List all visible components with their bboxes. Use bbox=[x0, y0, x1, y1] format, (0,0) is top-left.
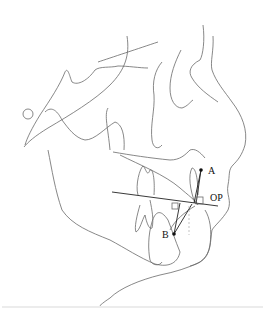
bottom-divider bbox=[2, 306, 263, 308]
incisor-lower bbox=[170, 206, 195, 230]
condyle-ramus bbox=[45, 109, 124, 150]
a-point-line2 bbox=[194, 170, 201, 203]
orbit-inner bbox=[170, 50, 193, 108]
sella-curve bbox=[65, 66, 148, 83]
molar-upper bbox=[137, 166, 154, 195]
label-a: A bbox=[208, 165, 216, 176]
maxilla-curve bbox=[120, 155, 198, 205]
label-b: B bbox=[162, 229, 169, 240]
nasal-bone bbox=[190, 25, 218, 102]
perpendicular-box-b bbox=[172, 203, 178, 209]
soft-tissue-profile bbox=[98, 36, 246, 308]
porion-circle bbox=[23, 109, 33, 119]
point-a-dot bbox=[199, 168, 203, 172]
frontal-contour bbox=[25, 72, 65, 145]
label-op: OP bbox=[210, 192, 223, 203]
cephalometric-tracing: A OP B bbox=[0, 0, 265, 313]
pterygoid-line bbox=[106, 108, 110, 150]
chin bbox=[190, 210, 211, 266]
mandible-outline bbox=[48, 150, 180, 265]
orbit-curve bbox=[24, 36, 128, 147]
point-b-dot bbox=[172, 232, 176, 236]
ptm-curve bbox=[152, 62, 162, 148]
